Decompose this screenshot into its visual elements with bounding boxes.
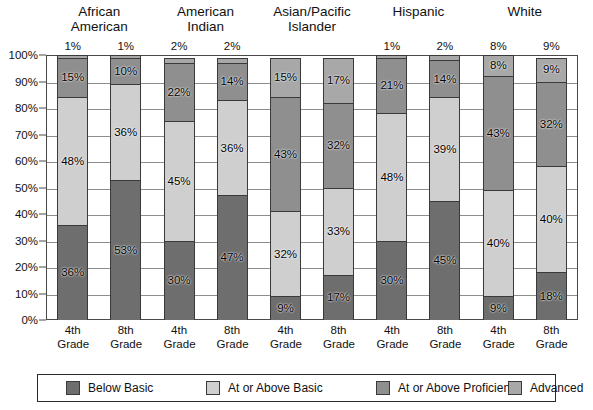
group-header-line1: American <box>177 4 234 19</box>
y-axis-tick-mark <box>39 187 46 188</box>
segment-value-label: 21% <box>380 80 403 92</box>
bar-segment-below-basic[interactable]: 45% <box>429 201 460 320</box>
bar-american-4th-grade[interactable]: 30%45%22%2% <box>164 55 195 320</box>
x-tick-line2: Grade <box>270 338 301 352</box>
legend-item-at-or-above-basic[interactable]: At or Above Basic <box>206 381 323 395</box>
group-header-line1: Asian/Pacific <box>273 4 350 19</box>
x-axis-tick-4th-grade: 4thGrade <box>270 324 301 351</box>
bar-segment-advanced[interactable]: 1% <box>376 55 407 58</box>
x-axis-labels: 4thGrade8thGrade4thGrade8thGrade4thGrade… <box>46 324 578 364</box>
group-header-line2: Islander <box>259 19 365 34</box>
y-axis-tick-label: 90% <box>15 76 38 88</box>
bar-american-8th-grade[interactable]: 47%36%14%2% <box>217 55 248 320</box>
segment-value-label: 32% <box>327 140 350 152</box>
bar-segment-at-or-above-basic[interactable]: 39% <box>429 97 460 200</box>
x-axis-tick-4th-grade: 4thGrade <box>164 324 195 351</box>
bar-african-4th-grade[interactable]: 36%48%15%1% <box>57 55 88 320</box>
segment-value-label: 43% <box>487 128 510 140</box>
group-header-line2: American <box>46 19 152 34</box>
segment-value-label: 32% <box>274 249 297 261</box>
legend-item-advanced[interactable]: Advanced <box>508 381 583 395</box>
bar-segment-below-basic[interactable]: 36% <box>57 225 88 320</box>
bar-white-4th-grade[interactable]: 9%40%43%8% <box>483 55 514 320</box>
bar-segment-below-basic[interactable]: 9% <box>270 296 301 320</box>
bar-segment-below-basic[interactable]: 47% <box>217 195 248 320</box>
bar-segment-advanced[interactable]: 2% <box>217 58 248 63</box>
bar-segment-at-or-above-basic[interactable]: 36% <box>217 100 248 195</box>
x-axis-tick-8th-grade: 8thGrade <box>323 324 354 351</box>
segment-value-label: 39% <box>433 144 456 156</box>
bar-segment-below-basic[interactable]: 53% <box>110 180 141 320</box>
bar-segment-below-basic[interactable]: 30% <box>164 241 195 321</box>
bar-segment-at-or-above-basic[interactable]: 36% <box>110 84 141 179</box>
bar-segment-at-or-above-basic[interactable]: 48% <box>57 97 88 224</box>
segment-value-label: 30% <box>380 275 403 287</box>
segment-value-label: 40% <box>487 238 510 250</box>
bar-segment-at-or-above-proficient[interactable]: 32% <box>323 103 354 188</box>
x-tick-line1: 8th <box>331 324 347 336</box>
bar-white-8th-grade[interactable]: 18%40%32%9% <box>536 55 567 320</box>
y-axis: 0%10%20%30%40%50%60%70%80%90%100% <box>0 55 46 320</box>
bar-segment-advanced[interactable]: 17% <box>323 58 354 103</box>
bar-segment-advanced[interactable]: 15% <box>270 58 301 98</box>
bar-segment-at-or-above-proficient[interactable]: 14% <box>217 63 248 100</box>
y-axis-tick-mark <box>39 293 46 294</box>
bar-segment-below-basic[interactable]: 17% <box>323 275 354 320</box>
y-axis-tick-label: 10% <box>15 288 38 300</box>
bar-segment-below-basic[interactable]: 9% <box>483 296 514 320</box>
segment-value-label: 48% <box>61 156 84 168</box>
bar-segment-advanced[interactable]: 1% <box>110 55 141 58</box>
bar-hispanic-8th-grade[interactable]: 45%39%14%2% <box>429 55 460 320</box>
bar-segment-advanced[interactable]: 9% <box>536 58 567 82</box>
bar-asian-pacific-8th-grade[interactable]: 17%33%32%17% <box>323 55 354 320</box>
bar-segment-advanced[interactable]: 2% <box>164 58 195 63</box>
bar-segment-at-or-above-basic[interactable]: 32% <box>270 211 301 296</box>
x-axis-tick-8th-grade: 8thGrade <box>110 324 141 351</box>
bar-segment-at-or-above-proficient[interactable]: 43% <box>483 76 514 190</box>
group-header-line1: Hispanic <box>393 4 445 19</box>
bar-hispanic-4th-grade[interactable]: 30%48%21%1% <box>376 55 407 320</box>
legend-item-below-basic[interactable]: Below Basic <box>66 381 153 395</box>
x-tick-line1: 8th <box>437 324 453 336</box>
bar-segment-at-or-above-proficient[interactable]: 14% <box>429 60 460 97</box>
bar-african-8th-grade[interactable]: 53%36%10%1% <box>110 55 141 320</box>
bar-segment-at-or-above-proficient[interactable]: 10% <box>110 58 141 85</box>
y-axis-tick-label: 30% <box>15 235 38 247</box>
bar-segment-below-basic[interactable]: 18% <box>536 272 567 320</box>
bar-segment-at-or-above-basic[interactable]: 40% <box>536 166 567 272</box>
y-axis-tick-label: 50% <box>15 182 38 194</box>
x-tick-line1: 8th <box>118 324 134 336</box>
bar-segment-at-or-above-proficient[interactable]: 21% <box>376 58 407 114</box>
bar-segment-at-or-above-proficient[interactable]: 43% <box>270 97 301 211</box>
bar-segment-at-or-above-proficient[interactable]: 22% <box>164 63 195 121</box>
bar-segment-below-basic[interactable]: 30% <box>376 241 407 321</box>
group-header-1: AmericanIndian <box>152 2 258 42</box>
segment-value-label: 15% <box>61 72 84 84</box>
segment-value-label: 22% <box>168 87 191 99</box>
bar-segment-at-or-above-basic[interactable]: 45% <box>164 121 195 240</box>
segment-value-label: 17% <box>327 75 350 87</box>
y-axis-tick-label: 0% <box>21 314 38 326</box>
bar-segment-at-or-above-basic[interactable]: 40% <box>483 190 514 296</box>
y-axis-tick-label: 40% <box>15 208 38 220</box>
bar-asian-pacific-4th-grade[interactable]: 9%32%43%15% <box>270 55 301 320</box>
x-tick-line2: Grade <box>376 338 407 352</box>
bar-segment-at-or-above-basic[interactable]: 33% <box>323 188 354 275</box>
y-axis-tick-label: 60% <box>15 155 38 167</box>
bar-segment-advanced[interactable]: 8% <box>483 55 514 76</box>
group-header-2: Asian/PacificIslander <box>259 2 365 42</box>
legend-item-at-or-above-proficient[interactable]: At or Above Proficient <box>376 381 513 395</box>
segment-value-label: 10% <box>114 66 137 78</box>
bar-segment-at-or-above-proficient[interactable]: 32% <box>536 82 567 167</box>
legend-label: Advanced <box>530 381 583 395</box>
bar-segment-advanced[interactable]: 2% <box>429 55 460 60</box>
x-axis-tick-4th-grade: 4thGrade <box>57 324 88 351</box>
x-tick-line2: Grade <box>429 338 460 352</box>
segment-value-label: 36% <box>221 143 244 155</box>
bar-segment-at-or-above-proficient[interactable]: 15% <box>57 58 88 98</box>
legend-label: At or Above Basic <box>228 381 323 395</box>
bar-segment-at-or-above-basic[interactable]: 48% <box>376 113 407 240</box>
y-axis-tick-mark <box>39 81 46 82</box>
bar-segment-advanced[interactable]: 1% <box>57 55 88 58</box>
segment-value-label: 30% <box>168 275 191 287</box>
